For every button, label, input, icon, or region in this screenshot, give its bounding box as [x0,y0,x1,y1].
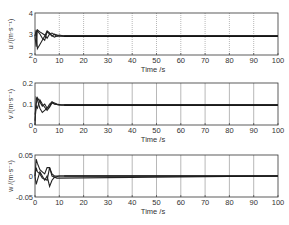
y-tick-label: 4 [29,9,33,18]
x-tick-label: 80 [225,198,233,207]
figure: 0102030405060708090100234Time /su /(m·s⁻… [0,0,289,225]
x-axis-label: Time /s [141,207,166,216]
x-tick-label: 50 [152,198,160,207]
series-line [35,30,278,47]
x-tick-label: 40 [128,56,136,65]
x-tick-label: 40 [128,198,136,207]
x-tick-label: 0 [33,198,37,207]
x-tick-label: 20 [79,126,87,135]
y-tick-label: 0.2 [23,79,33,88]
x-tick-label: 20 [79,56,87,65]
x-tick-label: 30 [104,56,112,65]
subplot-w: 0102030405060708090100-0.0500.05Time /sw… [7,151,284,217]
y-axis-label: v /(m·s⁻¹) [7,89,15,119]
x-tick-label: 10 [55,198,63,207]
y-tick-label: 0 [29,121,33,130]
x-tick-label: 0 [33,126,37,135]
x-tick-label: 100 [272,198,285,207]
chart-canvas: 0102030405060708090100234Time /su /(m·s⁻… [0,0,289,225]
x-tick-label: 60 [177,56,185,65]
y-tick-label: 0.05 [18,151,33,160]
y-tick-label: 2 [29,51,33,60]
y-axis-label: w /(m·s⁻¹) [7,160,15,193]
y-tick-label: 0.1 [23,100,33,109]
x-tick-label: 60 [177,126,185,135]
y-axis-label: u /(m·s⁻¹) [7,19,15,49]
y-tick-label: -0.05 [16,193,33,202]
x-tick-label: 70 [201,198,209,207]
x-tick-label: 80 [225,126,233,135]
x-tick-label: 10 [55,56,63,65]
x-tick-label: 30 [104,126,112,135]
x-tick-label: 90 [250,56,258,65]
subplot-v: 010203040506070809010000.10.2Time /sv /(… [7,79,284,145]
x-tick-label: 90 [250,126,258,135]
x-tick-label: 70 [201,126,209,135]
x-tick-label: 40 [128,126,136,135]
x-tick-label: 10 [55,126,63,135]
x-tick-label: 100 [272,126,285,135]
x-tick-label: 50 [152,126,160,135]
x-axis-label: Time /s [141,135,166,144]
x-tick-label: 20 [79,198,87,207]
y-tick-label: 3 [29,30,33,39]
x-tick-label: 70 [201,56,209,65]
x-tick-label: 90 [250,198,258,207]
x-tick-label: 60 [177,198,185,207]
x-tick-label: 50 [152,56,160,65]
x-tick-label: 0 [33,56,37,65]
subplot-u: 0102030405060708090100234Time /su /(m·s⁻… [7,9,284,75]
x-tick-label: 80 [225,56,233,65]
x-tick-label: 30 [104,198,112,207]
x-axis-label: Time /s [141,65,166,74]
y-tick-label: 0 [29,172,33,181]
x-tick-label: 100 [272,56,285,65]
